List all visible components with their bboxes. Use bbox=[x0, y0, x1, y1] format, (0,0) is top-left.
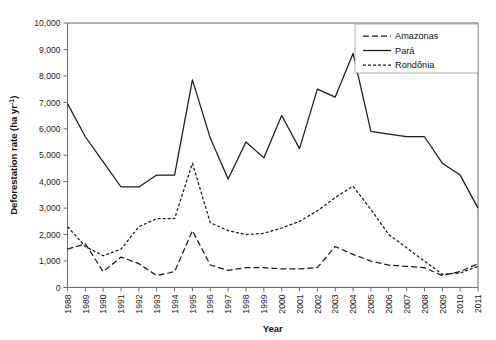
chart-legend: AmazonasParáRondônia bbox=[355, 24, 478, 73]
y-tick-label: 3,000 bbox=[39, 203, 61, 213]
x-tick-label: 2006 bbox=[384, 294, 394, 313]
legend-label-par: Pará bbox=[395, 46, 415, 56]
x-tick-label: 1989 bbox=[81, 294, 91, 313]
legend-label-rondnia: Rondônia bbox=[395, 60, 435, 70]
y-tick-label: 9,000 bbox=[39, 45, 61, 55]
x-tick-label: 2009 bbox=[438, 294, 448, 313]
series-line-par bbox=[68, 53, 479, 208]
y-tick-label: 10,000 bbox=[34, 18, 61, 28]
x-tick-label: 1988 bbox=[63, 294, 73, 313]
legend-label-amazonas: Amazonas bbox=[395, 31, 439, 41]
x-tick-label: 1995 bbox=[188, 294, 198, 313]
x-axis-ticks: 1988198919901991199219931994199519961997… bbox=[63, 288, 484, 314]
x-tick-label: 2011 bbox=[473, 294, 483, 313]
x-tick-label: 2005 bbox=[366, 294, 376, 313]
x-tick-label: 1992 bbox=[134, 294, 144, 313]
y-tick-label: 6,000 bbox=[39, 124, 61, 134]
x-tick-label: 2008 bbox=[420, 294, 430, 313]
x-tick-label: 2001 bbox=[295, 294, 305, 313]
y-tick-label: 1,000 bbox=[39, 256, 61, 266]
line-chart: 01,0002,0003,0004,0005,0006,0007,0008,00… bbox=[0, 0, 496, 340]
y-tick-label: 4,000 bbox=[39, 177, 61, 187]
x-tick-label: 1998 bbox=[241, 294, 251, 313]
y-tick-label: 2,000 bbox=[39, 230, 61, 240]
x-tick-label: 1993 bbox=[152, 294, 162, 313]
x-tick-label: 2002 bbox=[313, 294, 323, 313]
x-tick-label: 1997 bbox=[223, 294, 233, 313]
y-axis-title: Deforestation rate (ha yr-1) bbox=[8, 96, 20, 215]
y-tick-label: 8,000 bbox=[39, 71, 61, 81]
x-tick-label: 1990 bbox=[98, 294, 108, 313]
x-axis-title: Year bbox=[263, 323, 283, 334]
x-tick-label: 2007 bbox=[402, 294, 412, 313]
series-line-rondnia bbox=[68, 163, 479, 274]
y-tick-label: 5,000 bbox=[39, 150, 61, 160]
series-line-amazonas bbox=[68, 231, 479, 276]
chart-figure: 01,0002,0003,0004,0005,0006,0007,0008,00… bbox=[0, 0, 496, 340]
x-tick-label: 2003 bbox=[330, 294, 340, 313]
x-tick-label: 1994 bbox=[170, 294, 180, 313]
x-tick-label: 2004 bbox=[348, 294, 358, 313]
x-tick-label: 1991 bbox=[116, 294, 126, 313]
x-tick-label: 2000 bbox=[277, 294, 287, 313]
y-tick-label: 7,000 bbox=[39, 98, 61, 108]
data-series-group bbox=[68, 53, 479, 275]
x-tick-label: 2010 bbox=[455, 294, 465, 313]
x-tick-label: 1999 bbox=[259, 294, 269, 313]
y-tick-label: 0 bbox=[56, 283, 61, 293]
y-axis-ticks: 01,0002,0003,0004,0005,0006,0007,0008,00… bbox=[34, 18, 67, 293]
x-tick-label: 1996 bbox=[205, 294, 215, 313]
